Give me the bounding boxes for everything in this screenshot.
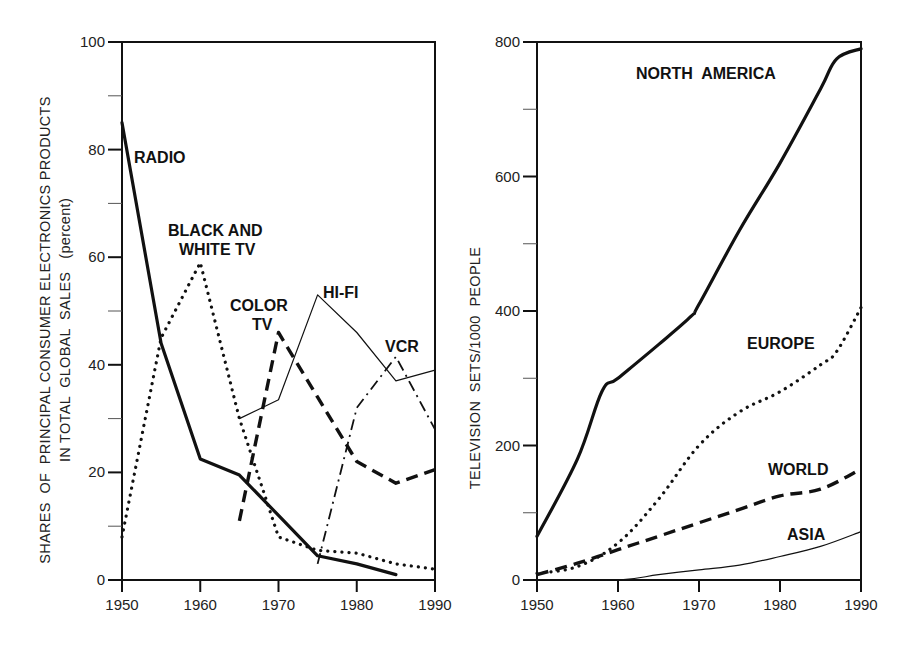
left-y-axis-title-line1: SHARES OF PRINCIPAL CONSUMER ELECTRONICS… bbox=[37, 96, 53, 563]
x-tick-label: 1970 bbox=[262, 596, 295, 613]
series-line-color-tv bbox=[239, 333, 435, 521]
left-chart: 02040608010019501960197019801990 SHARES … bbox=[37, 33, 452, 613]
y-tick-label: 80 bbox=[88, 141, 105, 158]
x-tick-label: 1980 bbox=[763, 596, 796, 613]
right-chart: 020040060080019501960197019801990 TELEVI… bbox=[467, 33, 878, 613]
y-tick-label: 400 bbox=[495, 302, 520, 319]
label-color-tv-line1: COLOR bbox=[230, 297, 288, 314]
label-north-america: NORTH AMERICA bbox=[636, 65, 776, 82]
label-color-tv-line2: TV bbox=[252, 316, 273, 333]
y-tick-label: 100 bbox=[80, 33, 105, 50]
right-plot-frame bbox=[537, 42, 861, 580]
y-tick-label: 800 bbox=[495, 33, 520, 50]
figure: 02040608010019501960197019801990 SHARES … bbox=[0, 0, 910, 645]
series-line-radio bbox=[122, 123, 396, 575]
label-europe: EUROPE bbox=[747, 335, 815, 352]
right-series bbox=[537, 49, 861, 581]
label-world: WORLD bbox=[768, 461, 828, 478]
y-tick-label: 60 bbox=[88, 248, 105, 265]
x-tick-label: 1980 bbox=[340, 596, 373, 613]
x-tick-label: 1990 bbox=[844, 596, 877, 613]
y-tick-label: 200 bbox=[495, 437, 520, 454]
y-tick-label: 40 bbox=[88, 356, 105, 373]
x-tick-label: 1950 bbox=[105, 596, 138, 613]
label-bw-tv-line2: WHITE TV bbox=[179, 241, 256, 258]
label-hifi: HI-FI bbox=[323, 284, 359, 301]
right-y-axis-title: TELEVISION SETS/1000 PEOPLE bbox=[467, 247, 483, 489]
label-bw-tv-line1: BLACK AND bbox=[168, 222, 263, 239]
label-asia: ASIA bbox=[787, 526, 826, 543]
y-tick-label: 600 bbox=[495, 168, 520, 185]
label-radio: RADIO bbox=[134, 149, 186, 166]
y-tick-label: 0 bbox=[97, 571, 105, 588]
x-tick-label: 1970 bbox=[682, 596, 715, 613]
x-tick-label: 1990 bbox=[418, 596, 451, 613]
x-tick-label: 1960 bbox=[601, 596, 634, 613]
y-tick-label: 20 bbox=[88, 463, 105, 480]
label-vcr: VCR bbox=[385, 338, 419, 355]
x-tick-label: 1950 bbox=[520, 596, 553, 613]
left-y-axis-title-line2: IN TOTAL GLOBAL SALES (percent) bbox=[57, 198, 73, 462]
y-tick-label: 0 bbox=[512, 571, 520, 588]
series-line-world bbox=[537, 469, 861, 575]
series-line-vcr bbox=[318, 357, 435, 564]
x-tick-label: 1960 bbox=[184, 596, 217, 613]
